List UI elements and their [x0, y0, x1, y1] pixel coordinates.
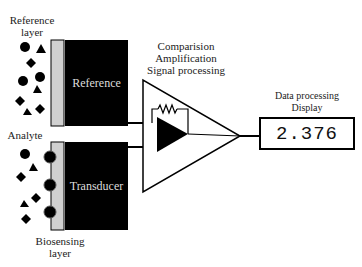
biosensing-layer-label-line2: layer	[32, 247, 88, 259]
analyte-shapes-bottom	[16, 149, 41, 224]
reference-layer-strip	[51, 40, 64, 126]
biosensing-layer-label-line1: Biosensing	[32, 235, 88, 247]
reference-layer-label: Reference layer	[0, 14, 64, 38]
transducer-block-label: Transducer	[65, 179, 128, 194]
bound-analyte-icons	[44, 151, 56, 218]
processing-label-line1: Comparision	[140, 40, 232, 52]
data-display-label: Data processing Display	[262, 90, 352, 114]
reference-block-label: Reference	[65, 76, 128, 91]
analyte-shapes-top	[15, 42, 46, 115]
processing-label-line3: Signal processing	[140, 64, 232, 76]
processing-label: Comparision Amplification Signal process…	[140, 40, 232, 76]
reference-layer-label-line1: Reference	[0, 14, 64, 26]
processing-label-line2: Amplification	[140, 52, 232, 64]
reference-layer-label-line2: layer	[0, 26, 64, 38]
analyte-label: Analyte	[2, 129, 48, 141]
readout-display: 2.376	[259, 117, 355, 150]
data-display-label-line2: Display	[262, 102, 352, 114]
data-display-label-line1: Data processing	[262, 90, 352, 102]
biosensing-layer-label: Biosensing layer	[32, 235, 88, 259]
readout-value: 2.376	[276, 123, 338, 145]
